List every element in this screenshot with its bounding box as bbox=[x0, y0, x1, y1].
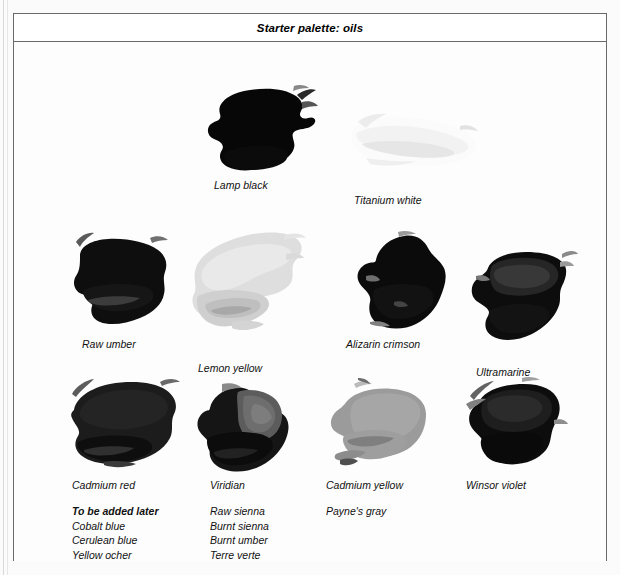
label-lemon-yellow: Lemon yellow bbox=[198, 362, 262, 374]
future-additions-column-1: To be added later Cobalt blue Cerulean b… bbox=[72, 504, 159, 561]
future-additions-item: Burnt umber bbox=[210, 533, 269, 548]
figure-title-bar: Starter palette: oils bbox=[14, 14, 606, 42]
figure-title: Starter palette: oils bbox=[257, 22, 363, 34]
swatch-raw-umber bbox=[66, 230, 178, 334]
future-additions-column-2: Raw sienna Burnt sienna Burnt umber Terr… bbox=[210, 504, 269, 561]
future-additions-column-3: Payne's gray bbox=[326, 504, 386, 519]
label-alizarin-crimson: Alizarin crimson bbox=[346, 338, 420, 350]
swatch-cadmium-red bbox=[64, 376, 186, 474]
page-edge-rule-inner bbox=[7, 0, 8, 575]
future-additions-item: Burnt sienna bbox=[210, 519, 269, 534]
future-additions-item: Yellow ocher bbox=[72, 548, 159, 561]
label-cadmium-red: Cadmium red bbox=[72, 479, 135, 491]
swatch-lamp-black bbox=[198, 84, 320, 176]
swatch-winsor-violet bbox=[458, 376, 568, 474]
label-cadmium-yellow: Cadmium yellow bbox=[326, 479, 403, 491]
label-titanium-white: Titanium white bbox=[354, 194, 422, 206]
label-raw-umber: Raw umber bbox=[82, 338, 136, 350]
figure-frame: Starter palette: oils Lamp black bbox=[13, 13, 607, 561]
future-additions-item: Terre verte bbox=[210, 548, 269, 561]
future-additions-item: Raw sienna bbox=[210, 504, 269, 519]
swatch-cadmium-yellow bbox=[318, 378, 432, 474]
swatch-alizarin-crimson bbox=[350, 230, 452, 336]
page-edge-rule-outer bbox=[3, 0, 4, 575]
future-additions-heading: To be added later bbox=[72, 504, 159, 519]
future-additions-item: Cobalt blue bbox=[72, 519, 159, 534]
label-lamp-black: Lamp black bbox=[214, 179, 268, 191]
label-winsor-violet: Winsor violet bbox=[466, 479, 526, 491]
swatch-lemon-yellow bbox=[174, 224, 308, 348]
label-viridian: Viridian bbox=[210, 479, 245, 491]
swatch-viridian bbox=[192, 382, 296, 476]
swatch-ultramarine bbox=[462, 240, 578, 354]
future-additions-item: Cerulean blue bbox=[72, 533, 159, 548]
swatch-titanium-white bbox=[342, 104, 484, 186]
palette-plate: Lamp black Titanium white Raw umber bbox=[14, 42, 606, 561]
future-additions-item: Payne's gray bbox=[326, 504, 386, 519]
